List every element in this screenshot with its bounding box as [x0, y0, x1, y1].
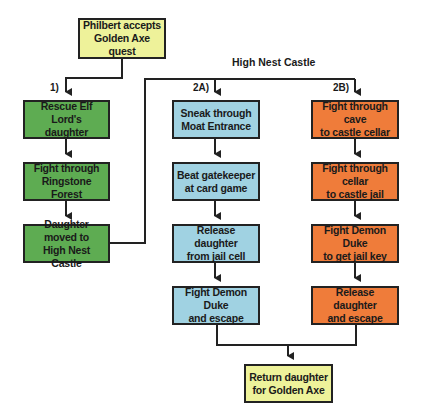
node-text: Beat gatekeeper [177, 169, 255, 182]
node-text: from jail cell [176, 250, 256, 263]
node-text: Release daughter [315, 286, 395, 312]
path2a-node-3: Release daughterfrom jail cell [172, 224, 260, 263]
node-text: Fight through cave [315, 100, 395, 126]
node-text: Return daughter [249, 371, 328, 384]
path2a-node-2: Beat gatekeeperat card game [172, 162, 260, 201]
branch-label-1: 1) [50, 82, 59, 93]
castle-title: High Nest Castle [232, 56, 315, 68]
node-text: daughter [27, 126, 106, 139]
start-node: Philbert acceptsGolden Axe quest [78, 18, 166, 59]
node-text: Sneak through [181, 107, 252, 120]
node-text: and escape [176, 312, 256, 325]
branch-label-2a: 2A) [193, 82, 209, 93]
end-node: Return daughterfor Golden Axe [244, 364, 333, 403]
node-text: Daughter moved to [27, 218, 106, 244]
node-text: Fight Demon Duke [176, 286, 256, 312]
node-text: Golden Axe quest [82, 32, 162, 58]
node-text: to castle cellar [315, 126, 395, 139]
path2b-node-4: Release daughterand escape [311, 286, 399, 325]
quest-flowchart: High Nest Castle 1) 2A) 2B) Philbert acc… [0, 0, 423, 420]
node-text: to castle jail [315, 188, 395, 201]
branch-label-2b: 2B) [333, 82, 349, 93]
path2b-node-3: Fight Demon Duketo get jail key [311, 224, 399, 263]
node-text: Moat Entrance [181, 120, 252, 133]
node-text: Fight through cellar [315, 162, 395, 188]
node-text: for Golden Axe [249, 384, 328, 397]
path2b-node-2: Fight through cellarto castle jail [311, 162, 399, 201]
path2a-node-4: Fight Demon Dukeand escape [172, 286, 260, 325]
node-text: Fight Demon Duke [315, 224, 395, 250]
path1-node-2: Fight throughRingstone Forest [23, 162, 110, 201]
path1-node-3: Daughter moved toHigh Nest Castle [23, 224, 110, 263]
node-text: Rescue Elf Lord's [27, 100, 106, 126]
node-text: Release daughter [176, 224, 256, 250]
path2b-node-1: Fight through caveto castle cellar [311, 100, 399, 139]
connector-lines [0, 0, 423, 420]
node-text: to get jail key [315, 250, 395, 263]
node-text: Philbert accepts [82, 19, 162, 32]
node-text: Ringstone Forest [27, 175, 106, 201]
node-text: High Nest Castle [27, 244, 106, 270]
path1-node-1: Rescue Elf Lord'sdaughter [23, 100, 110, 139]
path2a-node-1: Sneak throughMoat Entrance [172, 100, 260, 139]
node-text: Fight through [27, 162, 106, 175]
node-text: and escape [315, 312, 395, 325]
node-text: at card game [177, 182, 255, 195]
